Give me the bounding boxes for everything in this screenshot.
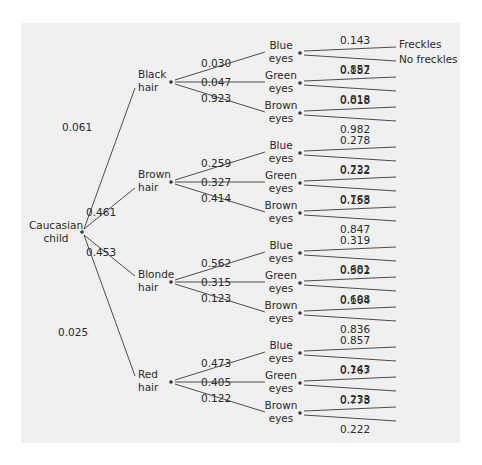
root-label: Caucasian: [29, 219, 83, 231]
no-freckles-edge: [304, 55, 396, 61]
eye-label: eyes: [269, 382, 294, 394]
freckles-edge: [304, 207, 396, 211]
no-freckles-edge: [304, 85, 396, 91]
hair-probability: 0.025: [58, 326, 88, 338]
freckles-edge: [304, 307, 396, 311]
eye-probability: 0.414: [201, 192, 231, 204]
hair-probability: 0.461: [86, 206, 116, 218]
hair-label: Blonde: [138, 268, 174, 280]
eye-node-dot: [298, 251, 302, 255]
eye-probability: 0.122: [201, 392, 231, 404]
eye-node-dot: [298, 381, 302, 385]
eye-label: eyes: [269, 282, 294, 294]
hair-label: hair: [138, 281, 159, 293]
eye-probability: 0.030: [201, 57, 231, 69]
freckles-probability: 0.767: [340, 364, 370, 376]
eye-label: Blue: [269, 339, 292, 351]
hair-node-dot: [169, 280, 173, 284]
eye-label: Brown: [265, 299, 298, 311]
eye-label: eyes: [269, 352, 294, 364]
eye-probability: 0.473: [201, 357, 231, 369]
no-freckles-edge: [304, 315, 396, 321]
eye-label: Brown: [265, 399, 298, 411]
eye-label: Brown: [265, 199, 298, 211]
freckles-edge: [304, 377, 396, 381]
freckles-edge: [304, 77, 396, 81]
freckles-probability: 0.153: [340, 194, 370, 206]
hair-label: hair: [138, 81, 159, 93]
no-freckles-edge: [304, 115, 396, 121]
freckles-edge: [304, 147, 396, 151]
freckles-probability: 0.164: [340, 294, 370, 306]
eye-label: eyes: [269, 152, 294, 164]
eye-node-dot: [298, 111, 302, 115]
root-label: child: [44, 232, 69, 244]
eye-probability: 0.047: [201, 76, 231, 88]
freckles-probability: 0.778: [340, 394, 370, 406]
freckles-edge: [304, 407, 396, 411]
leaf-label-no-freckles: No freckles: [399, 53, 458, 65]
eye-node-dot: [298, 51, 302, 55]
freckles-probability: 0.182: [340, 64, 370, 76]
freckles-probability: 0.857: [340, 334, 370, 346]
hair-label: Black: [138, 68, 167, 80]
hair-probability: 0.061: [62, 121, 92, 133]
eye-label: Blue: [269, 39, 292, 51]
root-node-dot: [80, 230, 84, 234]
eye-node-dot: [298, 281, 302, 285]
no-freckles-edge: [304, 215, 396, 221]
eye-label: Green: [265, 369, 297, 381]
freckles-edge: [304, 107, 396, 111]
eye-label: eyes: [269, 212, 294, 224]
eye-label: Green: [265, 269, 297, 281]
hair-node-dot: [169, 380, 173, 384]
no-freckles-edge: [304, 385, 396, 391]
eye-label: eyes: [269, 112, 294, 124]
eye-node-dot: [298, 351, 302, 355]
eye-probability: 0.405: [201, 376, 231, 388]
eye-node-dot: [298, 81, 302, 85]
eye-label: eyes: [269, 252, 294, 264]
eye-label: Blue: [269, 139, 292, 151]
eye-label: eyes: [269, 412, 294, 424]
freckles-edge: [304, 47, 396, 51]
hair-label: hair: [138, 381, 159, 393]
freckles-edge: [304, 177, 396, 181]
eye-label: Green: [265, 69, 297, 81]
eye-probability: 0.562: [201, 257, 231, 269]
no-freckles-edge: [304, 185, 396, 191]
eye-label: eyes: [269, 182, 294, 194]
no-freckles-edge: [304, 415, 396, 421]
freckles-probability: 0.018: [340, 94, 370, 106]
eye-label: Blue: [269, 239, 292, 251]
no-freckles-edge: [304, 355, 396, 361]
eye-probability: 0.315: [201, 276, 231, 288]
eye-probability: 0.259: [201, 157, 231, 169]
eye-probability: 0.123: [201, 292, 231, 304]
eye-label: eyes: [269, 82, 294, 94]
eye-node-dot: [298, 211, 302, 215]
probability-tree: Caucasianchild0.061Blackhair0.030Blueeye…: [0, 0, 482, 465]
eye-node-dot: [298, 411, 302, 415]
eye-label: Brown: [265, 99, 298, 111]
eye-node-dot: [298, 151, 302, 155]
eye-node-dot: [298, 311, 302, 315]
no-freckles-edge: [304, 255, 396, 261]
freckles-edge: [304, 347, 396, 351]
freckles-probability: 0.278: [340, 134, 370, 146]
eye-label: eyes: [269, 52, 294, 64]
eye-node-dot: [298, 181, 302, 185]
freckles-probability: 0.302: [340, 264, 370, 276]
eye-probability: 0.923: [201, 92, 231, 104]
hair-node-dot: [169, 80, 173, 84]
eye-probability: 0.327: [201, 176, 231, 188]
freckles-probability: 0.232: [340, 164, 370, 176]
hair-label: hair: [138, 181, 159, 193]
hair-node-dot: [169, 180, 173, 184]
no-freckles-probability: 0.222: [340, 423, 370, 435]
hair-label: Brown: [138, 168, 171, 180]
eye-label: eyes: [269, 312, 294, 324]
leaf-label-freckles: Freckles: [399, 38, 442, 50]
freckles-probability: 0.143: [340, 34, 370, 46]
freckles-probability: 0.319: [340, 234, 370, 246]
